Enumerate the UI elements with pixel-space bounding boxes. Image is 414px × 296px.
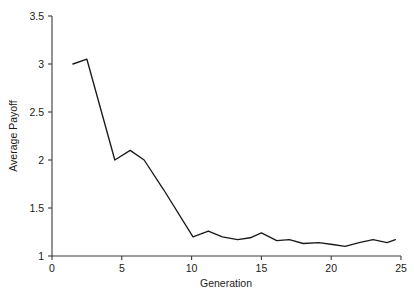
y-axis-tick-labels: 11.522.533.5 [29, 10, 44, 262]
x-tick-label: 10 [186, 262, 198, 274]
x-tick-label: 0 [49, 262, 55, 274]
y-tick-label: 2 [38, 154, 44, 166]
y-tick-label: 2.5 [29, 106, 44, 118]
x-axis-tick-labels: 0510152025 [49, 262, 407, 274]
chart-figure: 11.522.533.5 Average Payoff 0510152025 G… [0, 0, 414, 296]
x-tick-label: 15 [256, 262, 268, 274]
x-axis-title: Generation [200, 277, 252, 289]
x-axis: 0510152025 Generation [49, 256, 407, 289]
x-tick-label: 5 [119, 262, 125, 274]
series-group [73, 59, 395, 246]
y-axis-title: Average Payoff [7, 100, 19, 171]
y-tick-label: 1.5 [29, 202, 44, 214]
average-payoff-line-chart: 11.522.533.5 Average Payoff 0510152025 G… [0, 0, 414, 296]
y-tick-label: 1 [38, 250, 44, 262]
y-tick-label: 3 [38, 58, 44, 70]
series-line-average-payoff [73, 59, 395, 246]
y-axis-ticks [48, 16, 52, 256]
x-tick-label: 20 [325, 262, 337, 274]
y-tick-label: 3.5 [29, 10, 44, 22]
x-axis-ticks [52, 256, 401, 260]
y-axis: 11.522.533.5 Average Payoff [7, 10, 52, 262]
x-tick-label: 25 [395, 262, 407, 274]
